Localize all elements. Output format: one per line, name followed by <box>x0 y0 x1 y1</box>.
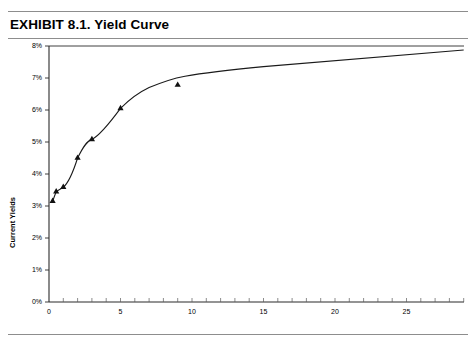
bottom-divider-rule <box>8 334 468 335</box>
chart-plot-area: 8% 7% 6% 5% 4% 3% 2% 1% 0% 0 5 10 15 20 … <box>0 40 476 330</box>
x-tick-label-0: 0 <box>37 308 61 315</box>
y-tick-label-6: 6% <box>18 106 42 113</box>
x-tick-label-25: 25 <box>395 308 419 315</box>
yield-curve-series <box>53 50 464 201</box>
data-point-markers <box>50 81 181 203</box>
yield-curve-chart <box>0 40 476 330</box>
top-divider-rule <box>8 11 468 12</box>
y-tick-label-8: 8% <box>18 42 42 49</box>
title-divider-rule <box>8 38 468 39</box>
y-tick-label-0: 0% <box>18 298 42 305</box>
x-axis-minor-ticks <box>63 298 463 302</box>
y-tick-label-4: 4% <box>18 170 42 177</box>
x-tick-label-15: 15 <box>252 308 276 315</box>
exhibit-title: EXHIBIT 8.1. Yield Curve <box>10 16 169 34</box>
y-tick-label-5: 5% <box>18 138 42 145</box>
y-axis-title: Current Yields <box>8 178 17 268</box>
y-tick-label-1: 1% <box>18 266 42 273</box>
y-tick-label-7: 7% <box>18 74 42 81</box>
chart-axes <box>49 46 464 302</box>
exhibit-figure: EXHIBIT 8.1. Yield Curve <box>0 0 476 347</box>
y-axis-ticks <box>45 46 49 302</box>
x-tick-label-20: 20 <box>323 308 347 315</box>
y-tick-label-3: 3% <box>18 202 42 209</box>
x-tick-label-10: 10 <box>180 308 204 315</box>
y-tick-label-2: 2% <box>18 234 42 241</box>
x-tick-label-5: 5 <box>109 308 133 315</box>
